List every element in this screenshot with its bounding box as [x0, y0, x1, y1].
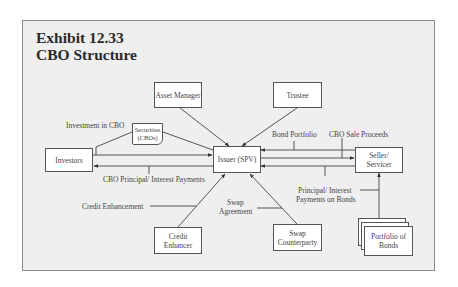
swap-counterparty-box: Swap Counterparty	[273, 224, 322, 251]
investors-box: Investors	[45, 148, 93, 172]
principal-interest-bonds-label-1: Principal/ Interest	[298, 186, 352, 195]
credit-enhancement-label: Credit Enhancement	[82, 202, 143, 211]
asset-manager-box: Asset Manager	[154, 82, 202, 108]
credit-enhancer-box: Credit Enhancer	[154, 227, 202, 254]
trustee-box: Trustee	[273, 82, 322, 108]
issuer-spv-box: Issuer (SPV)	[213, 146, 261, 173]
investment-in-cbo-label: Investment in CBO	[66, 121, 124, 130]
swap-agreement-label-1: Swap	[227, 198, 244, 207]
seller-servicer-box: Seller/ Servicer	[355, 147, 403, 173]
securities-note: Securities (CBOs)	[132, 123, 163, 145]
cbo-principal-interest-label: CBO Principal/ Interest Payments	[103, 175, 205, 184]
bond-portfolio-label: Bond Portfolio	[272, 130, 317, 139]
swap-agreement-label-2: Agreement	[219, 207, 252, 216]
principal-interest-bonds-label-2: Payments on Bonds	[296, 195, 356, 204]
portfolio-of-bonds-box: Portfolio of Bonds	[364, 226, 413, 256]
cbo-sale-proceeds-label: CBO Sale Proceeds	[329, 130, 388, 139]
